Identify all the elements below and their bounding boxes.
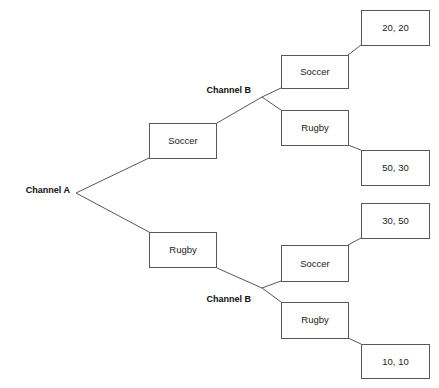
payoff-soccer-soccer: 20, 20 [362,11,430,46]
edge-b-top-to-rugby [262,97,281,110]
node-b-bottom-soccer[interactable]: Soccer [282,246,349,282]
edge-b-bottom-to-soccer [262,281,281,288]
edge-soccer-to-b-top [217,97,262,123]
payoff-soccer-soccer-value: 20, 20 [382,22,408,33]
edge-to-payoff-rugby-soccer [348,238,361,245]
game-tree-diagram: Channel A Channel B Channel B Soccer Rug… [0,0,439,388]
edge-b-bottom-to-rugby [262,288,281,302]
payoff-soccer-rugby-value: 50, 30 [382,162,408,173]
node-b-bottom-soccer-label: Soccer [300,258,330,269]
node-b-top-rugby[interactable]: Rugby [282,111,349,146]
node-b-bottom-rugby-label: Rugby [301,314,329,325]
payoff-rugby-rugby: 10, 10 [362,345,430,379]
node-a-soccer[interactable]: Soccer [150,124,217,159]
node-b-top-soccer-label: Soccer [300,66,330,77]
node-a-rugby-label: Rugby [169,244,197,255]
edge-rugby-to-b-bottom [217,268,262,288]
node-b-top-rugby-label: Rugby [301,122,329,133]
label-channel-b-bottom: Channel B [206,294,251,304]
edge-to-payoff-rugby-rugby [348,338,361,344]
node-b-top-soccer[interactable]: Soccer [282,56,349,89]
edge-to-payoff-soccer-rugby [348,145,361,150]
edge-root-to-soccer [76,158,149,193]
node-b-bottom-rugby[interactable]: Rugby [282,303,349,339]
payoff-rugby-rugby-value: 10, 10 [382,356,408,367]
payoff-soccer-rugby: 50, 30 [362,151,430,186]
node-a-rugby[interactable]: Rugby [150,233,217,268]
label-channel-a: Channel A [26,185,71,195]
payoff-rugby-soccer-value: 30, 50 [382,215,408,226]
edge-root-to-rugby [76,193,149,232]
edge-to-payoff-soccer-soccer [348,45,361,55]
game-tree-canvas: Channel A Channel B Channel B Soccer Rug… [0,0,439,388]
payoff-rugby-soccer: 30, 50 [362,204,430,239]
edge-b-top-to-soccer [262,88,281,97]
node-a-soccer-label: Soccer [168,135,198,146]
label-channel-b-top: Channel B [206,85,251,95]
